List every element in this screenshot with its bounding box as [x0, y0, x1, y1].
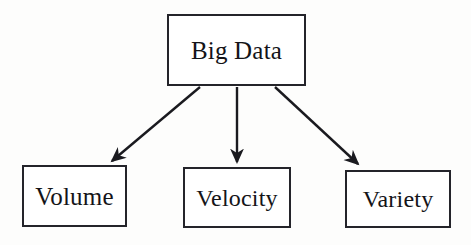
node-velocity-label: Velocity — [196, 186, 278, 210]
node-volume[interactable]: Volume — [22, 165, 127, 227]
edge-big-data-to-volume — [112, 87, 200, 161]
edge-big-data-to-variety — [275, 87, 358, 164]
node-velocity[interactable]: Velocity — [183, 167, 291, 228]
node-big-data-label: Big Data — [191, 38, 282, 63]
node-volume-label: Volume — [35, 184, 114, 209]
node-variety[interactable]: Variety — [345, 170, 451, 228]
diagram-canvas: Big Data Volume Velocity Variety — [0, 0, 471, 245]
node-variety-label: Variety — [363, 187, 434, 211]
node-big-data[interactable]: Big Data — [167, 14, 306, 86]
